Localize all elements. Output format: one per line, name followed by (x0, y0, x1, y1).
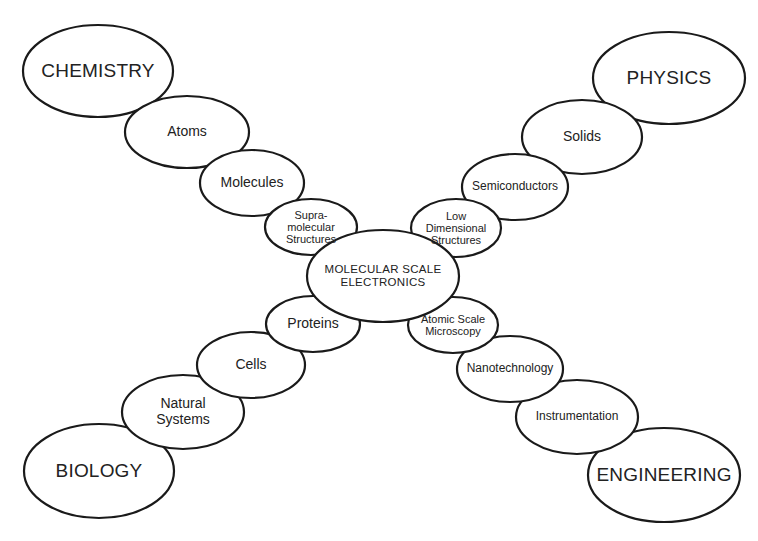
node-center-molecular-scale-electronics-label: MOLECULAR SCALE ELECTRONICS (307, 230, 459, 322)
concept-map-canvas: CHEMISTRYAtomsMoleculesSupra- molecular … (0, 0, 758, 541)
